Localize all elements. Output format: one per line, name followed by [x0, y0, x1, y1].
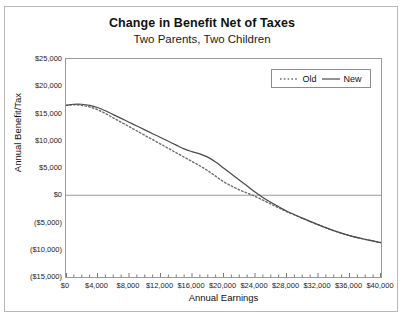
- x-axis-tick-label: $24,000: [240, 281, 267, 290]
- legend-swatch-dotted-icon: [280, 75, 298, 83]
- chart-legend: Old New: [271, 69, 371, 88]
- y-axis-tick-label: $15,000: [35, 110, 62, 118]
- plot-area: [65, 58, 382, 278]
- legend-label-new: New: [344, 74, 362, 84]
- y-axis-tick-label: $25,000: [35, 55, 62, 63]
- x-axis-ticks: [67, 273, 381, 277]
- plot-svg: [66, 59, 381, 277]
- x-axis-tick-label: $8,000: [117, 281, 140, 290]
- x-axis-title: Annual Earnings: [65, 292, 382, 303]
- series-line-old: [66, 105, 381, 243]
- x-axis-tick-label: $40,000: [366, 281, 393, 290]
- x-axis-tick-label: $32,000: [303, 281, 330, 290]
- chart-figure: Change in Benefit Net of Taxes Two Paren…: [4, 6, 398, 312]
- y-axis-tick-label: ($15,000): [30, 273, 62, 281]
- x-axis-tick-label: $16,000: [177, 281, 204, 290]
- y-axis-tick-label: $20,000: [35, 82, 62, 90]
- legend-label-old: Old: [302, 74, 316, 84]
- x-axis-tick-label: $28,000: [272, 281, 299, 290]
- x-axis-tick-label: $4,000: [85, 281, 108, 290]
- y-axis-tick-label: $5,000: [39, 164, 62, 172]
- chart-subtitle: Two Parents, Two Children: [5, 33, 399, 45]
- legend-entry-old: Old: [280, 74, 316, 84]
- y-axis-tick-label: ($10,000): [30, 246, 62, 254]
- chart-title: Change in Benefit Net of Taxes: [5, 16, 399, 30]
- y-axis-tick-label: ($5,000): [34, 219, 62, 227]
- x-axis-tick-label: $12,000: [146, 281, 173, 290]
- legend-swatch-solid-icon: [322, 75, 340, 83]
- y-axis-title: Annual Benefit/Tax: [12, 73, 23, 193]
- x-axis-tick-label: $36,000: [335, 281, 362, 290]
- x-axis-tick-label: $20,000: [209, 281, 236, 290]
- series-line-new: [66, 104, 381, 243]
- y-axis-tick-label: $10,000: [35, 137, 62, 145]
- legend-entry-new: New: [322, 74, 362, 84]
- y-axis-tick-label: $0: [54, 191, 62, 199]
- x-axis-tick-label: $0: [61, 281, 69, 290]
